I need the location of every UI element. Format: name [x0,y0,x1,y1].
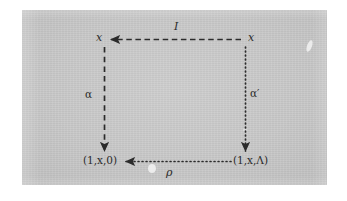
arrow-label-top: I [174,21,178,32]
vertex-bottom-left: (1,x,0) [83,155,117,166]
vertex-bottom-right: (1,x,Λ) [233,155,268,166]
vertex-top-left: x [96,32,102,43]
vertex-top-right: x [248,32,254,43]
figure-stage: x x (1,x,0) (1,x,Λ) I α α′ ρ [0,0,347,201]
arrow-label-bottom: ρ [166,167,172,178]
arrow-label-left: α [85,89,92,100]
arrow-label-right: α′ [250,88,259,99]
